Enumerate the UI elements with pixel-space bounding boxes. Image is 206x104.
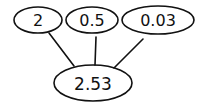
- edge-input-2: [95, 37, 96, 65]
- input-label-3: 0.03: [140, 11, 176, 30]
- output-label: 2.53: [74, 74, 112, 94]
- input-label-2: 0.5: [79, 11, 104, 30]
- edge-input-3: [114, 39, 143, 68]
- input-label-1: 2: [33, 11, 43, 30]
- edge-input-1: [49, 33, 74, 66]
- sum-diagram: 2 0.5 0.03 2.53: [0, 0, 206, 104]
